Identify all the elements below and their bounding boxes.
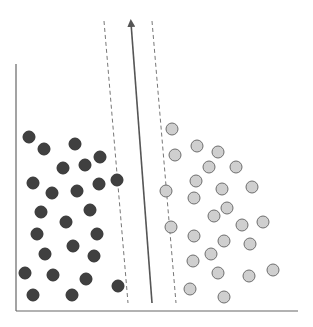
- class-b-point: [184, 283, 196, 295]
- class-b-point: [208, 210, 220, 222]
- class-b-point: [191, 140, 203, 152]
- class-a-point: [79, 159, 91, 171]
- class-a-point: [57, 162, 69, 174]
- class-b-point: [216, 183, 228, 195]
- class-b-point: [246, 181, 258, 193]
- hyperplane-arrow: [131, 23, 152, 303]
- class-a-point: [93, 178, 105, 190]
- class-a-point: [60, 216, 72, 228]
- class-a-point: [39, 248, 51, 260]
- class-a-point: [46, 187, 58, 199]
- class-b-point: [203, 161, 215, 173]
- class-b-point: [169, 149, 181, 161]
- class-b-point: [212, 146, 224, 158]
- class-a-point: [35, 206, 47, 218]
- class-b-point: [221, 202, 233, 214]
- class-a-point: [80, 273, 92, 285]
- class-a-point: [69, 138, 81, 150]
- class-b-point: [166, 123, 178, 135]
- class-a-point: [27, 289, 39, 301]
- class-a-point: [66, 289, 78, 301]
- left-margin-line: [104, 21, 128, 303]
- class-b-point: [236, 219, 248, 231]
- class-a-point: [38, 143, 50, 155]
- class-b-point: [267, 264, 279, 276]
- class-b-point: [160, 185, 172, 197]
- class-a-point: [67, 240, 79, 252]
- class-b-point: [188, 192, 200, 204]
- class-b-point: [165, 221, 177, 233]
- class-a-point: [111, 174, 123, 186]
- class-a-point: [47, 269, 59, 281]
- class-b-points: [160, 123, 279, 303]
- class-b-point: [230, 161, 242, 173]
- class-a-point: [31, 228, 43, 240]
- class-a-point: [19, 267, 31, 279]
- class-b-point: [244, 238, 256, 250]
- class-a-point: [91, 228, 103, 240]
- class-b-point: [218, 235, 230, 247]
- margin-lines: [104, 21, 176, 303]
- class-a-point: [27, 177, 39, 189]
- class-b-point: [190, 175, 202, 187]
- class-a-point: [23, 131, 35, 143]
- class-b-point: [218, 291, 230, 303]
- right-margin-line: [152, 21, 176, 303]
- class-b-point: [187, 255, 199, 267]
- class-b-point: [257, 216, 269, 228]
- class-a-point: [94, 151, 106, 163]
- diagram-canvas: [0, 0, 313, 327]
- class-a-point: [112, 280, 124, 292]
- class-b-point: [212, 267, 224, 279]
- class-b-point: [205, 248, 217, 260]
- decision-boundary: [131, 23, 152, 303]
- class-a-point: [71, 185, 83, 197]
- class-b-point: [243, 270, 255, 282]
- svm-diagram: [0, 0, 313, 327]
- class-b-point: [188, 230, 200, 242]
- class-a-point: [88, 250, 100, 262]
- class-a-point: [84, 204, 96, 216]
- class-a-points: [19, 131, 124, 301]
